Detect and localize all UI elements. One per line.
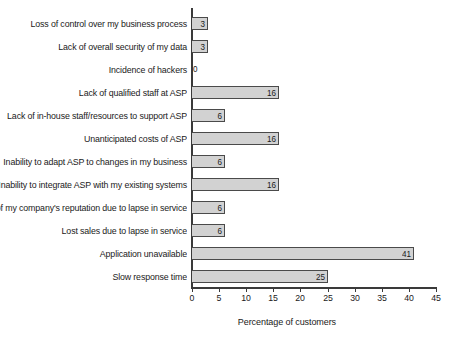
bar: 6: [192, 201, 225, 214]
bar-track: 6: [192, 155, 225, 168]
x-axis-tick-label: 0: [181, 292, 203, 304]
bar-row: Inability to adapt ASP to changes in my …: [0, 155, 457, 178]
x-axis-tick-label: 15: [262, 292, 284, 304]
category-label: Lost sales due to lapse in service: [0, 224, 187, 237]
category-label: Incidence of hackers: [0, 63, 187, 76]
bar-rows: Loss of control over my business process…: [0, 17, 457, 293]
bar-track: 25: [192, 270, 328, 283]
bar-track: 16: [192, 86, 279, 99]
x-axis-tick-label: 35: [371, 292, 393, 304]
bar-track: 41: [192, 247, 414, 260]
bar-row: Application unavailable41: [0, 247, 457, 270]
bar: 16: [192, 178, 279, 191]
bar: 6: [192, 224, 225, 237]
category-label: Unanticipated costs of ASP: [0, 132, 187, 145]
bar-value-label: 6: [217, 202, 222, 214]
bar-row: Inability to integrate ASP with my exist…: [0, 178, 457, 201]
x-axis-tick-label: 25: [317, 292, 339, 304]
bar-track: 0: [192, 63, 201, 76]
plot-area: Loss of control over my business process…: [0, 0, 457, 300]
x-axis-tick-label: 20: [289, 292, 311, 304]
category-label: Application unavailable: [0, 247, 187, 260]
bar-chart: Loss of control over my business process…: [0, 0, 457, 337]
bar: 3: [192, 17, 208, 30]
bar: 6: [192, 155, 225, 168]
category-label: Inability to integrate ASP with my exist…: [0, 178, 187, 191]
category-label: Loss of my company's reputation due to l…: [0, 201, 187, 214]
bar-value-label: 6: [217, 156, 222, 168]
bar: 0: [192, 63, 201, 76]
bar-value-label: 25: [316, 271, 325, 283]
bar-track: 16: [192, 178, 279, 191]
bar-row: Unanticipated costs of ASP16: [0, 132, 457, 155]
category-label: Lack of in-house staff/resources to supp…: [0, 109, 187, 122]
bar-row: Slow response time25: [0, 270, 457, 293]
bar-value-label: 0: [193, 63, 198, 75]
bar-track: 6: [192, 109, 225, 122]
bar-track: 3: [192, 40, 208, 53]
bar-value-label: 6: [217, 110, 222, 122]
bar-track: 3: [192, 17, 208, 30]
bar-value-label: 3: [201, 41, 206, 53]
category-label: Slow response time: [0, 270, 187, 283]
x-axis-title-text: Percentage of customers: [238, 316, 336, 327]
category-label: Lack of overall security of my data: [0, 40, 187, 53]
category-label: Inability to adapt ASP to changes in my …: [0, 155, 187, 168]
x-axis-title: Percentage of customers: [11, 316, 445, 327]
bar-row: Incidence of hackers0: [0, 63, 457, 86]
bar-track: 16: [192, 132, 279, 145]
bar-value-label: 16: [267, 87, 276, 99]
x-axis-tick-label: 5: [208, 292, 230, 304]
bar: 41: [192, 247, 414, 260]
x-axis-tick-label: 10: [235, 292, 257, 304]
bar-row: Lack of qualified staff at ASP16: [0, 86, 457, 109]
bar: 16: [192, 132, 279, 145]
bar-track: 6: [192, 201, 225, 214]
bar-value-label: 6: [217, 225, 222, 237]
bar-value-label: 16: [267, 179, 276, 191]
category-label: Loss of control over my business process: [0, 17, 187, 30]
bar: 16: [192, 86, 279, 99]
bar-row: Lack of in-house staff/resources to supp…: [0, 109, 457, 132]
x-axis-tick-label: 45: [425, 292, 447, 304]
bar-row: Loss of my company's reputation due to l…: [0, 201, 457, 224]
bar-track: 6: [192, 224, 225, 237]
category-label: Lack of qualified staff at ASP: [0, 86, 187, 99]
bar: 25: [192, 270, 328, 283]
bar-value-label: 41: [402, 248, 411, 260]
bar-value-label: 3: [201, 18, 206, 30]
x-axis-tick-label: 30: [344, 292, 366, 304]
bar-row: Lost sales due to lapse in service6: [0, 224, 457, 247]
bar-row: Loss of control over my business process…: [0, 17, 457, 40]
bar: 3: [192, 40, 208, 53]
bar-value-label: 16: [267, 133, 276, 145]
bar: 6: [192, 109, 225, 122]
x-axis-tick-label: 40: [398, 292, 420, 304]
bar-row: Lack of overall security of my data3: [0, 40, 457, 63]
